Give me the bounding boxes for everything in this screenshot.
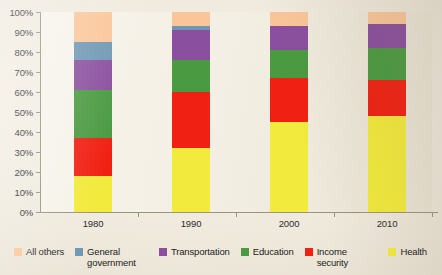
y-axis-tick [36,152,40,153]
y-axis-tick-label: 10% [15,187,33,198]
x-axis-line [40,212,438,213]
bar-segment-education[interactable] [74,90,112,138]
scanned-page: 0%10%20%30%40%50%60%70%80%90%100% 198019… [0,0,442,275]
y-axis-tick-label: 30% [15,147,33,158]
y-axis-tick [36,72,40,73]
bar-segment-transportation[interactable] [172,30,210,60]
stacked-bar[interactable] [172,12,210,212]
bar-segment-transportation[interactable] [74,60,112,90]
legend-item-transportation[interactable]: Transportation [159,246,230,257]
stacked-bar[interactable] [368,12,406,212]
y-axis-tick [36,132,40,133]
y-axis-tick [36,12,40,13]
x-axis-tick-label: 1990 [181,218,202,229]
legend-label: General government [87,246,148,268]
bar-segment-health[interactable] [74,176,112,212]
bar-segment-education[interactable] [270,50,308,78]
y-axis-tick-label: 40% [15,127,33,138]
legend-label: Education [253,246,294,257]
y-axis-tick-label: 100% [10,7,34,18]
y-axis-tick [36,92,40,93]
y-axis-tick [36,52,40,53]
bar-segment-all-others[interactable] [172,12,210,26]
legend-label: All others [26,246,64,257]
y-axis-tick-label: 0% [20,207,33,218]
y-axis-tick [36,172,40,173]
y-axis-line [40,12,41,213]
stacked-bar-chart: 0%10%20%30%40%50%60%70%80%90%100% 198019… [40,12,432,213]
legend-swatch-icon [75,248,83,256]
legend-swatch-icon [159,248,167,256]
bar-segment-education[interactable] [172,60,210,92]
y-axis-tick [36,192,40,193]
y-axis-tick-label: 60% [15,87,33,98]
y-axis-tick [36,32,40,33]
x-axis-tick [432,213,433,217]
y-axis-tick-label: 90% [15,27,33,38]
y-axis-tick [36,112,40,113]
bar-segment-income-security[interactable] [74,138,112,176]
bar-segment-transportation[interactable] [368,24,406,48]
bar-segment-all-others[interactable] [74,12,112,42]
legend-item-general-government[interactable]: General government [75,246,148,268]
legend-swatch-icon [241,248,249,256]
y-axis-tick-label: 20% [15,167,33,178]
x-axis-tick [138,213,139,217]
y-axis-tick [36,212,40,213]
legend-label: Health [400,246,427,257]
bar-segment-health[interactable] [368,116,406,212]
stacked-bar[interactable] [74,12,112,212]
y-axis-tick-label: 80% [15,47,33,58]
bar-segment-health[interactable] [172,148,210,212]
legend-label: Income security [317,246,378,268]
legend-swatch-icon [388,248,396,256]
stacked-bar[interactable] [270,12,308,212]
legend-swatch-icon [305,248,313,256]
bar-segment-transportation[interactable] [270,26,308,50]
y-axis-tick-label: 70% [15,67,33,78]
bar-segment-all-others[interactable] [270,12,308,26]
x-axis-tick [334,213,335,217]
legend-item-health[interactable]: Health [388,246,427,257]
bar-segment-health[interactable] [270,122,308,212]
x-axis-tick-label: 2010 [377,218,398,229]
chart-legend: All othersGeneral governmentTransportati… [14,246,438,274]
y-axis-tick-label: 50% [15,107,33,118]
legend-item-all-others[interactable]: All others [14,246,64,257]
bar-segment-education[interactable] [368,48,406,80]
x-axis-tick [236,213,237,217]
x-axis-tick-label: 1980 [83,218,104,229]
bar-segment-income-security[interactable] [172,92,210,148]
bar-segment-all-others[interactable] [368,12,406,24]
bar-segment-general-government[interactable] [74,42,112,60]
legend-label: Transportation [171,246,230,257]
bar-segment-income-security[interactable] [270,78,308,122]
legend-item-education[interactable]: Education [241,246,294,257]
legend-item-income-security[interactable]: Income security [305,246,378,268]
bar-segment-income-security[interactable] [368,80,406,116]
legend-swatch-icon [14,248,22,256]
x-axis-tick-label: 2000 [279,218,300,229]
